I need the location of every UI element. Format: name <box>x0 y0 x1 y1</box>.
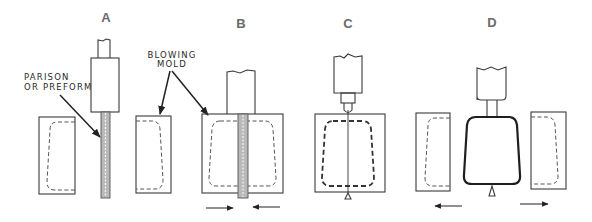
blow-molding-diagram: A B C D PARISON OR PREFORM BLOWING MOLD <box>0 0 592 222</box>
parison-tip-c <box>345 193 351 199</box>
extruder-head-b <box>227 70 255 114</box>
parison-a <box>101 112 110 198</box>
stage-d <box>416 67 566 206</box>
mold-half-left-a <box>39 117 75 194</box>
stage-c <box>315 54 385 199</box>
stage-label-d: D <box>487 15 496 30</box>
blown-bottle-d <box>464 117 520 184</box>
leader-mold-right <box>172 71 208 115</box>
mold-half-left-d <box>416 113 450 191</box>
mold-half-right-a <box>136 116 171 193</box>
parison-b <box>238 114 248 198</box>
leader-mold-left <box>160 71 170 114</box>
stage-b <box>202 70 283 208</box>
blow-pin-head-c <box>334 54 362 113</box>
stage-a <box>39 39 171 198</box>
stage-label-a: A <box>101 10 111 25</box>
stage-label-c: C <box>343 16 353 31</box>
blow-pin-head-d <box>477 67 506 117</box>
callout-parison-line2: OR PREFORM <box>24 82 93 92</box>
mold-half-right-d <box>531 112 566 189</box>
callout-mold-line2: MOLD <box>157 59 187 69</box>
bottle-tip-d <box>489 186 495 196</box>
extruder-head-a <box>91 39 119 112</box>
callout-parison-line1: PARISON <box>24 72 70 82</box>
stage-label-b: B <box>236 16 245 31</box>
leader-parison <box>60 95 100 137</box>
mold-closed-c <box>315 114 385 192</box>
